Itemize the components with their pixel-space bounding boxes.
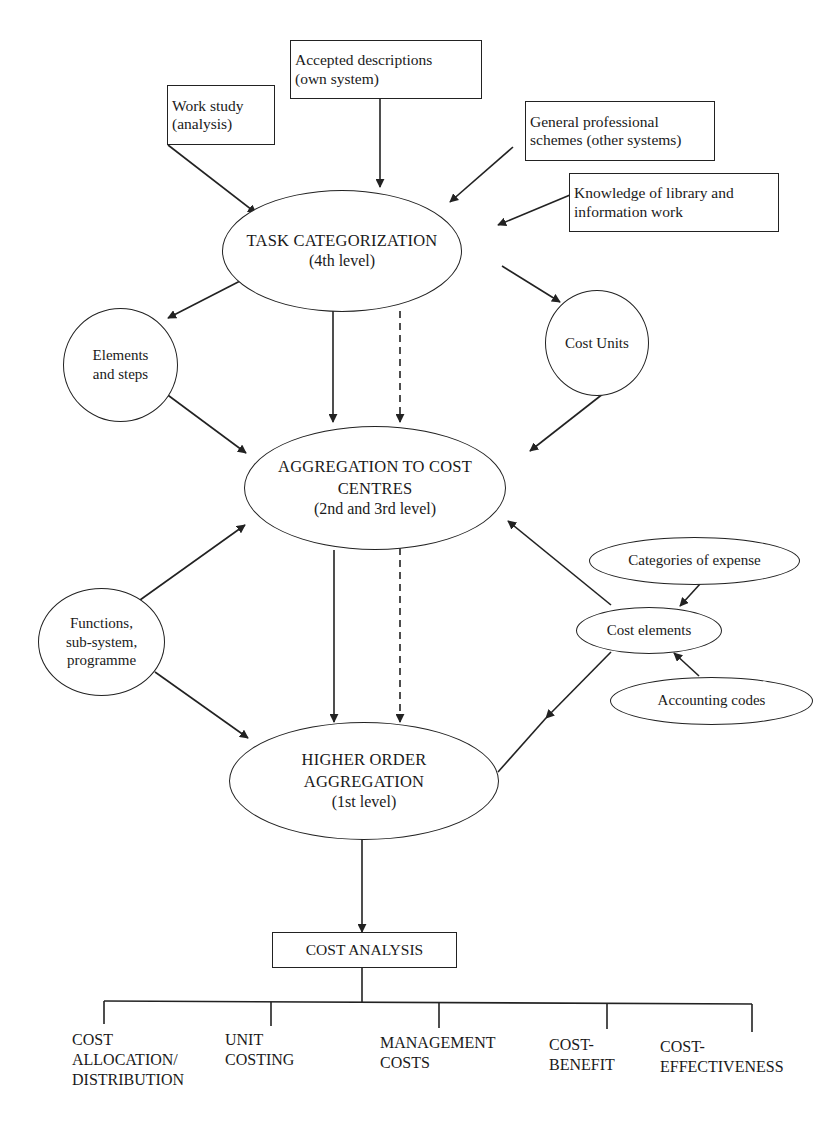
- cost-analysis-box: COST ANALYSIS: [272, 932, 457, 968]
- accepted-descriptions-label: Accepted descriptions: [295, 51, 432, 69]
- aggregation-title-line2: CENTRES: [338, 478, 413, 499]
- work-study-sublabel: (analysis): [172, 115, 244, 133]
- branch-management-costs-line2: COSTS: [380, 1053, 496, 1073]
- categories-expense-label: Categories of expense: [628, 551, 760, 571]
- branch-unit-costing-line1: UNIT: [225, 1030, 294, 1050]
- aggregation-cost-centres-node: AGGREGATION TO COST CENTRES (2nd and 3rd…: [244, 426, 506, 550]
- branch-cost-allocation-line1: COST: [72, 1030, 184, 1050]
- arrow-to-cost-units: [502, 266, 560, 302]
- functions-node: Functions, sub-system, programme: [38, 588, 165, 696]
- task-categorization-level: (4th level): [309, 251, 375, 272]
- branch-cost-effectiveness-line1: COST-: [660, 1037, 784, 1057]
- branch-unit-costing-line2: COSTING: [225, 1050, 294, 1070]
- higher-order-level: (1st level): [332, 792, 396, 813]
- general-schemes-box: General professional schemes (other syst…: [525, 101, 715, 161]
- arrow-functions-to-aggregation: [140, 525, 245, 600]
- work-study-label: Work study: [172, 97, 244, 115]
- branch-cost-benefit-line2: BENEFIT: [549, 1055, 615, 1075]
- work-study-box: Work study (analysis): [167, 85, 275, 145]
- elements-steps-line1: Elements: [93, 346, 149, 365]
- branch-cost-allocation: COST ALLOCATION/ DISTRIBUTION: [72, 1030, 184, 1090]
- knowledge-sublabel: information work: [574, 203, 734, 221]
- accepted-descriptions-sublabel: (own system): [295, 70, 432, 88]
- arrow-cost-elements-to-higher: [546, 652, 611, 718]
- branch-cost-benefit-line1: COST-: [549, 1035, 615, 1055]
- branch-management-costs-line1: MANAGEMENT: [380, 1033, 496, 1053]
- aggregation-title-line1: AGGREGATION TO COST: [278, 456, 472, 477]
- arrow-to-elements-steps: [168, 279, 244, 318]
- functions-line1: Functions,: [70, 614, 133, 633]
- arrow-functions-to-higher: [155, 672, 248, 738]
- cost-units-label: Cost Units: [565, 334, 629, 353]
- arrow-elements-to-aggregation: [161, 390, 246, 453]
- cost-analysis-title: COST ANALYSIS: [306, 941, 423, 959]
- knowledge-box: Knowledge of library and information wor…: [569, 173, 779, 232]
- accounting-codes-label: Accounting codes: [658, 691, 766, 711]
- accepted-descriptions-box: Accepted descriptions (own system): [290, 40, 482, 99]
- task-categorization-node: TASK CATEGORIZATION (4th level): [222, 190, 462, 312]
- branch-unit-costing: UNIT COSTING: [225, 1030, 294, 1070]
- higher-order-node: HIGHER ORDER AGGREGATION (1st level): [229, 722, 499, 840]
- higher-order-title-line1: HIGHER ORDER: [302, 749, 427, 770]
- elements-steps-line2: and steps: [93, 365, 148, 384]
- arrow-accounting-to-cost-elements: [674, 653, 699, 676]
- general-schemes-sublabel: schemes (other systems): [530, 131, 682, 149]
- tree-bar: [104, 1001, 752, 1004]
- branch-cost-allocation-line2: ALLOCATION/: [72, 1050, 184, 1070]
- task-categorization-title: TASK CATEGORIZATION: [247, 230, 438, 251]
- elements-steps-node: Elements and steps: [63, 308, 178, 422]
- knowledge-label: Knowledge of library and: [574, 184, 734, 202]
- cost-units-node: Cost Units: [545, 290, 649, 396]
- branch-management-costs: MANAGEMENT COSTS: [380, 1033, 496, 1073]
- functions-line2: sub-system,: [66, 633, 137, 652]
- arrow-categories-to-cost-elements: [680, 584, 700, 606]
- branch-cost-effectiveness: COST- EFFECTIVENESS: [660, 1037, 784, 1077]
- cost-elements-node: Cost elements: [576, 607, 722, 654]
- arrow-knowledge: [498, 195, 570, 225]
- connector-higher-right: [498, 718, 546, 772]
- categories-expense-node: Categories of expense: [589, 537, 800, 585]
- branch-cost-effectiveness-line2: EFFECTIVENESS: [660, 1057, 784, 1077]
- accounting-codes-node: Accounting codes: [610, 677, 813, 725]
- arrow-general-schemes: [450, 147, 513, 202]
- arrow-work-study: [168, 145, 256, 213]
- branch-cost-allocation-line3: DISTRIBUTION: [72, 1070, 184, 1090]
- aggregation-level: (2nd and 3rd level): [314, 499, 436, 520]
- higher-order-title-line2: AGGREGATION: [304, 771, 424, 792]
- functions-line3: programme: [67, 651, 136, 670]
- branch-cost-benefit: COST- BENEFIT: [549, 1035, 615, 1075]
- cost-elements-label: Cost elements: [607, 621, 692, 641]
- general-schemes-label: General professional: [530, 113, 682, 131]
